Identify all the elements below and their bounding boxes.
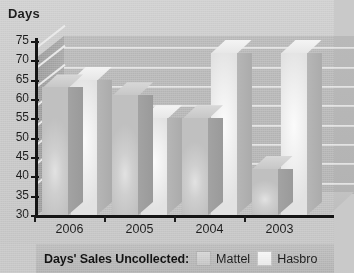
bar-side-face (307, 53, 322, 215)
y-tick-label: 30 (1, 207, 29, 221)
y-tick-label: 75 (1, 33, 29, 47)
x-tick-label-2005: 2005 (112, 222, 168, 236)
x-tick-label-2003: 2003 (252, 222, 308, 236)
hasbro-swatch-icon (257, 251, 272, 266)
legend-item-hasbro[interactable]: Hasbro (257, 251, 317, 266)
plot-area (36, 36, 334, 218)
y-axis-labels: 75706560555045403530 (0, 0, 29, 273)
bar-front-face (252, 169, 278, 215)
mattel-swatch-icon (196, 251, 211, 266)
bar-front-face (42, 87, 68, 215)
y-tick-mark (31, 196, 39, 198)
bar-front-face (112, 95, 138, 215)
x-tick-mark (104, 216, 106, 222)
bar-mattel-2005[interactable] (112, 95, 138, 215)
bar-mattel-2003[interactable] (252, 169, 278, 215)
y-tick-label: 60 (1, 91, 29, 105)
y-tick-label: 70 (1, 52, 29, 66)
y-tick-mark (31, 176, 39, 178)
x-tick-mark (174, 216, 176, 222)
y-tick-label: 55 (1, 110, 29, 124)
bar-side-face (138, 95, 153, 215)
bar-side-face (68, 87, 83, 215)
y-tick-mark (31, 80, 39, 82)
bar-side-face (208, 118, 223, 215)
y-tick-mark (31, 118, 39, 120)
y-tick-mark (31, 99, 39, 101)
x-tick-mark (34, 216, 36, 222)
bar-front-face (182, 118, 208, 215)
y-tick-label: 50 (1, 130, 29, 144)
legend-item-mattel[interactable]: Mattel (196, 251, 250, 266)
x-tick-label-2004: 2004 (182, 222, 238, 236)
y-tick-label: 45 (1, 149, 29, 163)
bar-side-face (237, 53, 252, 215)
legend-label-mattel: Mattel (216, 252, 250, 266)
y-tick-mark (31, 41, 39, 43)
y-tick-mark (31, 138, 39, 140)
x-axis-line (35, 215, 334, 218)
bar-side-face (167, 118, 182, 215)
y-tick-label: 35 (1, 188, 29, 202)
legend-label-hasbro: Hasbro (277, 252, 317, 266)
bar-mattel-2004[interactable] (182, 118, 208, 215)
legend-left-pad (0, 244, 36, 273)
x-tick-label-2006: 2006 (42, 222, 98, 236)
y-tick-mark (31, 157, 39, 159)
y-tick-mark (31, 60, 39, 62)
y-tick-label: 40 (1, 168, 29, 182)
bar-mattel-2006[interactable] (42, 87, 68, 215)
y-tick-label: 65 (1, 72, 29, 86)
y-axis-line (35, 38, 38, 218)
bar-side-face (97, 80, 112, 215)
legend-title: Days' Sales Uncollected: (44, 252, 189, 266)
chart-legend: Days' Sales Uncollected: Mattel Hasbro (36, 244, 334, 273)
x-tick-mark (244, 216, 246, 222)
